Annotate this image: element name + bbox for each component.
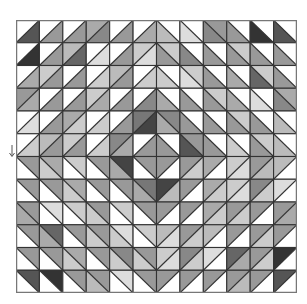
quilt-cell — [203, 111, 226, 134]
quilt-cell — [157, 157, 180, 180]
quilt-cell — [227, 225, 250, 248]
quilt-cell — [110, 20, 133, 43]
quilt-cell — [180, 179, 203, 202]
quilt-cell — [203, 248, 226, 271]
quilt-cell — [63, 248, 86, 271]
quilt-cell — [39, 270, 62, 293]
quilt-cell — [274, 134, 297, 157]
quilt-cell — [16, 179, 39, 202]
quilt-cell — [110, 111, 133, 134]
quilt-cell — [110, 88, 133, 111]
quilt-cell — [180, 270, 203, 293]
quilt-cell — [133, 20, 156, 43]
quilt-cell — [16, 134, 39, 157]
quilt-cell — [63, 111, 86, 134]
quilt-cell — [39, 20, 62, 43]
quilt-cell — [39, 157, 62, 180]
quilt-cell — [16, 202, 39, 225]
quilt-cell — [203, 225, 226, 248]
quilt-cell — [250, 202, 273, 225]
quilt-cell — [227, 270, 250, 293]
down-arrow-icon — [8, 145, 16, 157]
quilt-cell — [157, 43, 180, 66]
quilt-cell — [133, 157, 156, 180]
quilt-cell — [203, 88, 226, 111]
quilt-cell — [274, 88, 297, 111]
quilt-cell — [16, 157, 39, 180]
quilt-cell — [63, 202, 86, 225]
quilt-cell — [16, 43, 39, 66]
quilt-cell — [203, 270, 226, 293]
quilt-cell — [227, 66, 250, 89]
quilt-cell — [180, 248, 203, 271]
quilt-cell — [86, 43, 109, 66]
quilt-cell — [63, 88, 86, 111]
quilt-cell — [63, 66, 86, 89]
quilt-cell — [180, 20, 203, 43]
quilt-cell — [133, 111, 156, 134]
quilt-cell — [157, 134, 180, 157]
quilt-cell — [227, 179, 250, 202]
quilt-cell — [39, 111, 62, 134]
quilt-cell — [86, 225, 109, 248]
quilt-cell — [274, 20, 297, 43]
quilt-cell — [250, 43, 273, 66]
quilt-cell — [39, 88, 62, 111]
quilt-cell — [86, 202, 109, 225]
quilt-cell — [203, 157, 226, 180]
quilt-cell — [274, 225, 297, 248]
quilt-cell — [86, 270, 109, 293]
quilt-cell — [157, 20, 180, 43]
quilt-cell — [250, 157, 273, 180]
quilt-cell — [39, 179, 62, 202]
quilt-cell — [274, 202, 297, 225]
quilt-cell — [16, 88, 39, 111]
quilt-cell — [63, 225, 86, 248]
quilt-cell — [180, 202, 203, 225]
quilt-cell — [63, 134, 86, 157]
quilt-cell — [157, 225, 180, 248]
quilt-cell — [86, 248, 109, 271]
quilt-cell — [274, 66, 297, 89]
quilt-cell — [16, 111, 39, 134]
quilt-cell — [180, 88, 203, 111]
quilt-cell — [250, 88, 273, 111]
quilt-cell — [274, 270, 297, 293]
quilt-cell — [227, 20, 250, 43]
quilt-cell — [86, 20, 109, 43]
quilt-cell — [63, 270, 86, 293]
quilt-cell — [110, 270, 133, 293]
quilt-cell — [203, 43, 226, 66]
quilt-cell — [110, 157, 133, 180]
quilt-cell — [227, 248, 250, 271]
quilt-cell — [133, 248, 156, 271]
quilt-cell — [157, 88, 180, 111]
quilt-cell — [110, 179, 133, 202]
quilt-cell — [86, 66, 109, 89]
quilt-cell — [203, 66, 226, 89]
quilt-cell — [110, 43, 133, 66]
quilt-cell — [180, 111, 203, 134]
quilt-cell — [250, 111, 273, 134]
quilt-cell — [157, 179, 180, 202]
quilt-cell — [250, 248, 273, 271]
quilt-cell — [110, 134, 133, 157]
quilt-cell — [157, 202, 180, 225]
quilt-cell — [133, 270, 156, 293]
quilt-cell — [157, 111, 180, 134]
quilt-cell — [16, 20, 39, 43]
quilt-cell — [86, 111, 109, 134]
quilt-cell — [250, 134, 273, 157]
quilt-cell — [86, 157, 109, 180]
quilt-cell — [110, 248, 133, 271]
quilt-cell — [39, 225, 62, 248]
quilt-cell — [250, 20, 273, 43]
quilt-cell — [16, 248, 39, 271]
quilt-cell — [250, 270, 273, 293]
quilt-cell — [157, 270, 180, 293]
quilt-cell — [227, 202, 250, 225]
quilt-cell — [110, 225, 133, 248]
quilt-cell — [133, 66, 156, 89]
quilt-cell — [274, 157, 297, 180]
quilt-cell — [180, 43, 203, 66]
